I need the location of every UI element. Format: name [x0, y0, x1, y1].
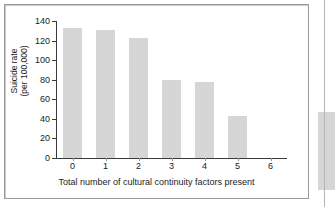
y-tick-label: 60 — [24, 94, 50, 104]
y-tick-mark — [52, 158, 56, 159]
bar — [63, 28, 82, 158]
y-tick-mark — [52, 138, 56, 139]
y-axis-tick-labels: 020406080100120140 — [24, 4, 50, 199]
bar — [129, 38, 148, 158]
y-tick-label: 40 — [24, 114, 50, 124]
x-tick-label: 6 — [259, 161, 283, 171]
bar-chart: Suicide rate (per 100,000) 0204060801001… — [4, 4, 309, 199]
y-tick-label: 0 — [24, 153, 50, 163]
plot-area — [56, 21, 287, 158]
bar — [195, 82, 214, 158]
x-tick-label: 5 — [226, 161, 250, 171]
bar — [162, 80, 181, 158]
y-tick-mark — [52, 21, 56, 22]
y-tick-mark — [52, 99, 56, 100]
y-tick-label: 20 — [24, 133, 50, 143]
x-tick-label: 3 — [160, 161, 184, 171]
x-tick-label: 0 — [61, 161, 85, 171]
bar — [228, 116, 247, 158]
x-axis-title: Total number of cultural continuity fact… — [4, 177, 309, 187]
y-tick-label: 140 — [24, 16, 50, 26]
y-tick-mark — [52, 60, 56, 61]
page-edge-line-artifact — [324, 0, 325, 207]
x-tick-label: 2 — [127, 161, 151, 171]
y-tick-label: 100 — [24, 55, 50, 65]
page-edge-bar-artifact — [318, 112, 335, 190]
x-axis-tick-labels: 0123456 — [56, 161, 287, 175]
y-tick-mark — [52, 80, 56, 81]
x-tick-label: 1 — [94, 161, 118, 171]
x-tick-label: 4 — [193, 161, 217, 171]
y-axis-title-line1: Suicide rate — [9, 49, 19, 94]
y-axis-line — [56, 21, 57, 158]
y-tick-mark — [52, 119, 56, 120]
y-tick-mark — [52, 41, 56, 42]
y-tick-label: 120 — [24, 36, 50, 46]
bar — [96, 30, 115, 158]
y-tick-label: 80 — [24, 75, 50, 85]
